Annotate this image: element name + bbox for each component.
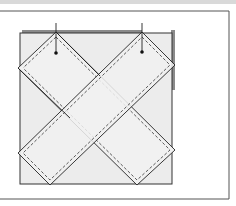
quilting-diagram (0, 0, 236, 206)
